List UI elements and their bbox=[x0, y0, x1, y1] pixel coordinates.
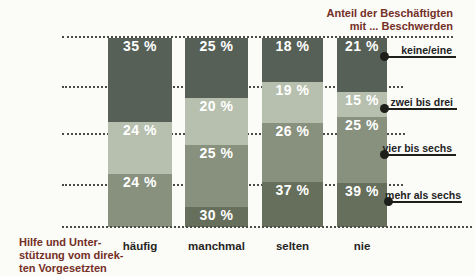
bar-segment: 20 % bbox=[185, 98, 248, 145]
bar-segment-value: 35 % bbox=[108, 39, 172, 54]
legend-line bbox=[387, 201, 462, 203]
bar-segment-value: 39 % bbox=[337, 184, 387, 199]
x-axis-title: Hilfe und Unter- stützung vom direk- ten… bbox=[19, 236, 124, 275]
bar-haeufig: 35 %24 %24 % bbox=[108, 38, 172, 227]
bar-segment: 15 % bbox=[337, 92, 387, 117]
category-label-selten: selten bbox=[252, 240, 333, 252]
bar-segment: 18 % bbox=[262, 38, 323, 82]
bar-segment: 19 % bbox=[262, 82, 323, 123]
bar-manchmal: 25 %20 %25 %30 % bbox=[185, 38, 248, 227]
bar-segment: 25 % bbox=[185, 38, 248, 98]
gridline-baseline bbox=[62, 226, 472, 228]
legend-dot bbox=[380, 150, 389, 159]
category-label-manchmal: manchmal bbox=[176, 240, 257, 252]
bar-segment: 30 % bbox=[185, 207, 248, 227]
x-axis-title-line1: Hilfe und Unter- bbox=[19, 236, 124, 249]
stacked-bar-chart: 35 %24 %24 % 25 %20 %25 %30 % 18 %19 %26… bbox=[0, 0, 475, 276]
bar-segment-value: 21 % bbox=[337, 39, 387, 54]
bar-segment: 35 % bbox=[108, 38, 172, 122]
bar-segment-value: 18 % bbox=[262, 39, 323, 54]
chart-title-line1: Anteil der Beschäftigten bbox=[326, 7, 453, 20]
bar-segment-value: 26 % bbox=[262, 124, 323, 139]
legend-label-vier-bis-sechs: vier bis sechs bbox=[383, 142, 452, 154]
bar-segment: 25 % bbox=[185, 145, 248, 207]
bar-segment-value: 25 % bbox=[185, 39, 248, 54]
bar-segment: 26 % bbox=[262, 123, 323, 182]
legend-line bbox=[384, 154, 456, 156]
chart-title: Anteil der Beschäftigten mit ... Beschwe… bbox=[326, 7, 453, 33]
bar-segment: 25 % bbox=[337, 117, 387, 183]
category-label-nie: nie bbox=[322, 240, 402, 252]
bar-segment: 24 % bbox=[108, 122, 172, 174]
bar-segment: 24 % bbox=[108, 174, 172, 227]
legend-label-zwei-bis-drei: zwei bis drei bbox=[391, 96, 453, 108]
chart-title-line2: mit ... Beschwerden bbox=[326, 20, 453, 33]
legend-line bbox=[384, 56, 456, 58]
bar-segment-value: 37 % bbox=[262, 183, 323, 198]
x-axis-title-line3: ten Vorgesetzten bbox=[19, 262, 124, 275]
bar-segment-value: 30 % bbox=[185, 208, 248, 223]
legend-label-mehr-als-sechs: mehr als sechs bbox=[385, 189, 461, 201]
bar-segment-value: 24 % bbox=[108, 123, 172, 138]
bar-segment-value: 25 % bbox=[185, 146, 248, 161]
bar-segment-value: 20 % bbox=[185, 99, 248, 114]
x-axis-title-line2: stützung vom direk- bbox=[19, 249, 124, 262]
bar-selten: 18 %19 %26 %37 % bbox=[262, 38, 323, 227]
bar-segment-value: 25 % bbox=[337, 118, 387, 133]
legend-label-keine-eine: keine/eine bbox=[401, 44, 452, 56]
bar-segment: 21 % bbox=[337, 38, 387, 92]
legend-dot bbox=[384, 197, 393, 206]
bar-segment-value: 19 % bbox=[262, 83, 323, 98]
legend-dot bbox=[380, 104, 389, 113]
bar-segment-value: 24 % bbox=[108, 175, 172, 190]
legend-line bbox=[384, 108, 457, 110]
bar-segment: 39 % bbox=[337, 183, 387, 227]
legend-dot bbox=[380, 52, 389, 61]
bar-segment: 37 % bbox=[262, 182, 323, 227]
bar-nie: 21 %15 %25 %39 % bbox=[337, 38, 387, 227]
